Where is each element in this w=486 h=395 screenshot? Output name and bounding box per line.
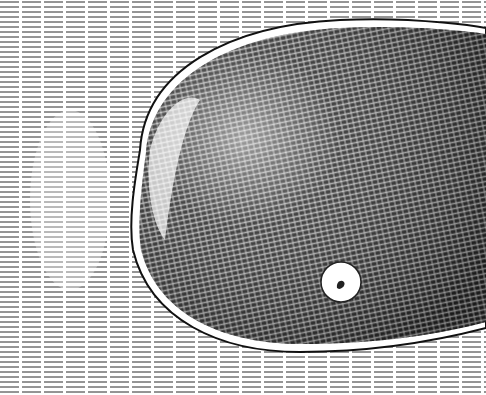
highlight-patch bbox=[30, 110, 110, 290]
dark-blob bbox=[131, 19, 486, 352]
illustration-canvas bbox=[0, 0, 486, 395]
white-dot bbox=[321, 262, 361, 302]
ink-drawing bbox=[0, 0, 486, 395]
